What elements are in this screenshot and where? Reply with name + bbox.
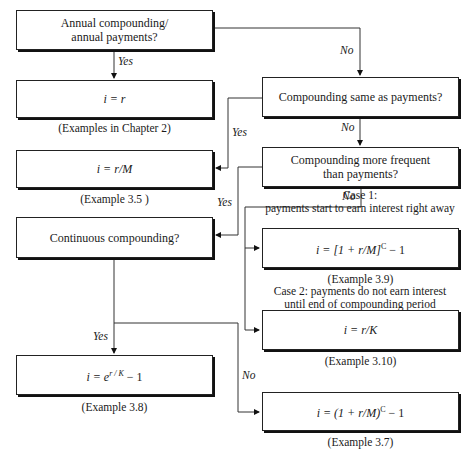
compounding-more-frequent-question-box: Compounding more frequent than payments? [262, 147, 459, 187]
edge-label-continuous-yes: Yes [93, 330, 108, 342]
discrete-formula: i = (1 + r/M)C − 1 [317, 403, 405, 420]
annual-question-line2: annual payments? [71, 30, 157, 44]
more-frequent-line1: Compounding more frequent [291, 153, 430, 167]
case1-note: Case 1: payments start to earn interest … [245, 189, 475, 215]
case2-formula-box: i = r/K [262, 310, 459, 350]
continuous-compounding-question-box: Continuous compounding? [16, 217, 213, 258]
annual-question-line1: Annual compounding/ [61, 16, 169, 30]
case1-note-line2: payments start to earn interest right aw… [245, 202, 475, 215]
i-equals-r-caption: (Examples in Chapter 2) [16, 122, 213, 134]
case1-formula: i = [1 + r/M]C − 1 [316, 240, 405, 257]
edge-label-same-yes: Yes [232, 126, 247, 138]
i-equals-r-over-m-caption: (Example 3.5 ) [16, 193, 213, 205]
more-frequent-line2: than payments? [323, 167, 398, 181]
case1-caption: (Example 3.9) [262, 273, 459, 285]
same-question-text: Compounding same as payments? [279, 90, 443, 104]
case1-note-line1: Case 1: [245, 189, 475, 202]
continuous-caption: (Example 3.8) [16, 401, 213, 413]
case2-note-line1: Case 2: payments do not earn interest [245, 285, 475, 298]
i-equals-r-over-m-formula: i = r/M [97, 162, 132, 176]
case2-note: Case 2: payments do not earn interest un… [245, 285, 475, 311]
i-equals-r-box: i = r [16, 80, 213, 118]
case2-formula: i = r/K [344, 323, 377, 337]
compounding-same-question-box: Compounding same as payments? [262, 77, 459, 117]
case2-caption: (Example 3.10) [262, 355, 459, 367]
edge-label-same-no: No [341, 121, 354, 133]
i-equals-r-formula: i = r [103, 92, 125, 106]
edge-label-more-yes: Yes [217, 196, 232, 208]
edge-label-annual-yes: Yes [118, 55, 133, 67]
discrete-caption: (Example 3.7) [262, 436, 459, 448]
continuous-formula-box: i = er / K − 1 [16, 355, 213, 395]
case1-formula-box: i = [1 + r/M]C − 1 [262, 228, 459, 268]
annual-compounding-question-box: Annual compounding/ annual payments? [16, 10, 213, 50]
i-equals-r-over-m-box: i = r/M [16, 150, 213, 188]
edge-label-annual-no: No [340, 44, 353, 56]
continuous-question-text: Continuous compounding? [50, 231, 180, 245]
discrete-formula-box: i = (1 + r/M)C − 1 [262, 392, 459, 431]
edge-label-continuous-no: No [242, 369, 255, 381]
continuous-formula: i = er / K − 1 [86, 367, 142, 384]
